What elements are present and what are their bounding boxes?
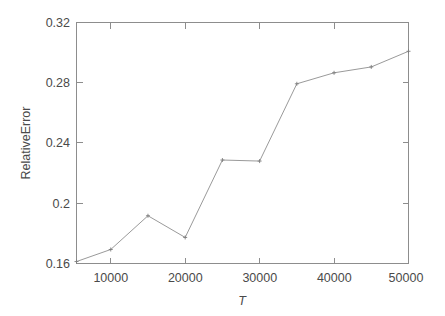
- data-point-marker: [220, 158, 224, 162]
- data-point-marker: [407, 49, 411, 53]
- y-axis-title: RelativeError: [19, 107, 33, 180]
- data-point-marker: [369, 65, 373, 69]
- y-axis-ticks: [77, 23, 409, 264]
- series-markers: [75, 49, 411, 263]
- y-tick-label-4: 0.32: [46, 16, 70, 30]
- y-tick-label-3: 0.28: [46, 76, 70, 90]
- chart-container: 0.16 0.2 0.24 0.28 0.32 10000 20000 3000…: [0, 0, 445, 316]
- data-point-marker: [183, 235, 187, 239]
- data-point-marker: [258, 159, 262, 163]
- x-axis-title: T: [238, 294, 247, 308]
- data-series-relative-error: [75, 49, 411, 263]
- x-tick-label-3: 40000: [317, 271, 352, 285]
- relative-error-line-chart: 0.16 0.2 0.24 0.28 0.32 10000 20000 3000…: [0, 0, 445, 316]
- x-tick-label-4: 50000: [389, 271, 424, 285]
- y-tick-label-2: 0.24: [46, 136, 70, 150]
- data-point-marker: [332, 71, 336, 75]
- x-axis-ticks: [111, 23, 334, 264]
- y-tick-label-0: 0.16: [46, 257, 70, 271]
- data-point-marker: [295, 82, 299, 86]
- x-tick-label-2: 30000: [242, 271, 277, 285]
- data-point-marker: [75, 260, 79, 264]
- x-tick-label-0: 10000: [93, 271, 128, 285]
- x-tick-label-1: 20000: [168, 271, 203, 285]
- plot-frame: [77, 23, 409, 264]
- y-tick-label-1: 0.2: [53, 197, 70, 211]
- series-line-relative-error: [77, 51, 409, 261]
